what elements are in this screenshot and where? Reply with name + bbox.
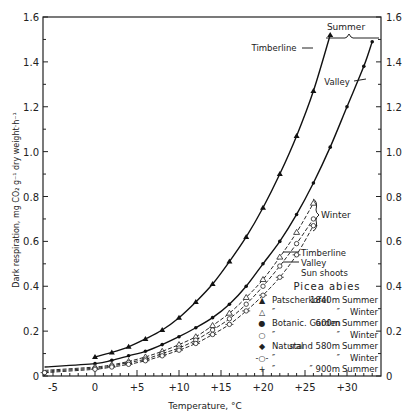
- svg-text:Summer: Summer: [342, 341, 379, 351]
- legend-row: -○-″″Winter: [256, 353, 379, 363]
- annotation-summer: Summer: [327, 22, 365, 32]
- legend-marker-icon: +: [259, 365, 266, 374]
- x-tick-label: +20: [252, 382, 273, 393]
- y-tick-label-right: 1.0: [386, 147, 402, 158]
- x-tick-label: +30: [336, 382, 357, 393]
- y-tick-label-right: 0.4: [386, 281, 402, 292]
- annotation-valley: Valley: [324, 77, 349, 87]
- annotation-w-timberline: Timberline: [300, 248, 346, 258]
- svg-text:Summer: Summer: [342, 364, 379, 374]
- valley-leader: [354, 79, 366, 81]
- legend-marker-icon: ◆: [259, 342, 266, 351]
- y-tick-label-right: 1.4: [386, 57, 402, 68]
- series-0: [92, 32, 333, 359]
- y-tick-label-right: 0.2: [386, 326, 402, 337]
- legend-row: +″″ 900mSummer: [259, 364, 379, 374]
- y-tick-label-left: 1.6: [23, 12, 39, 23]
- y-tick-label-left: 1.4: [23, 57, 39, 68]
- x-axis-label: Temperature, °C: [167, 401, 242, 411]
- svg-text:″: ″: [272, 330, 275, 340]
- svg-text:Winter: Winter: [350, 330, 379, 340]
- svg-text:Winter: Winter: [350, 307, 379, 317]
- legend-row: ▲Patscherkofel1840mSummer: [259, 295, 379, 305]
- svg-text:Summer: Summer: [342, 295, 379, 305]
- legend-marker-icon: ▲: [259, 296, 266, 305]
- y-tick-label-right: 0.6: [386, 236, 402, 247]
- y-tick-label-right: 1.2: [386, 102, 402, 113]
- svg-text:″: ″: [272, 353, 275, 363]
- x-tick-label: +10: [168, 382, 189, 393]
- svg-text:″: ″: [337, 353, 340, 363]
- svg-text:″: ″: [272, 307, 275, 317]
- legend-row: ◆Naturalstand 580mSummer: [259, 341, 379, 351]
- y-tick-label-left: 0.6: [23, 236, 39, 247]
- legend-title: Picea abies: [293, 281, 360, 292]
- svg-text:″: ″: [337, 330, 340, 340]
- svg-text:600m: 600m: [315, 318, 340, 328]
- legend-row: ○″″Winter: [259, 330, 379, 340]
- annotation-timberline: Timberline: [250, 43, 296, 53]
- svg-text:″ 900m: ″ 900m: [310, 364, 340, 374]
- y-axis-label: Dark respiration, mg CO₂ g⁻¹ dry weight·…: [12, 112, 21, 287]
- x-tick-label: 0: [92, 382, 98, 393]
- y-tick-label-left: 0: [33, 371, 39, 382]
- annotation-sun-shoots: Sun shoots: [301, 268, 348, 278]
- y-tick-label-left: 1.2: [23, 102, 39, 113]
- x-tick-label: +15: [210, 382, 231, 393]
- legend-marker-icon: ○: [259, 331, 266, 340]
- y-tick-label-left: 0.8: [23, 192, 39, 203]
- svg-text:stand 580m: stand 580m: [289, 341, 340, 351]
- legend-row: △″″Winter: [259, 307, 379, 317]
- y-tick-label-left: 0.4: [23, 281, 39, 292]
- y-tick-label-right: 1.6: [386, 12, 402, 23]
- svg-text:Winter: Winter: [350, 353, 379, 363]
- annotation-w-valley: Valley: [301, 258, 326, 268]
- respiration-chart: 000.20.20.40.40.60.60.80.81.01.01.21.21.…: [0, 0, 410, 414]
- legend-marker-icon: △: [259, 308, 266, 317]
- summer-brace: [326, 34, 379, 38]
- svg-text:″: ″: [272, 364, 275, 374]
- svg-text:″: ″: [337, 307, 340, 317]
- svg-text:1840m: 1840m: [310, 295, 340, 305]
- legend: Picea abies ▲Patscherkofel1840mSummer△″″…: [256, 281, 379, 374]
- y-tick-label-left: 1.0: [23, 147, 39, 158]
- y-tick-label-right: 0.8: [386, 192, 402, 203]
- y-tick-label-left: 0.2: [23, 326, 39, 337]
- legend-row: ●Botanic. Garden600mSummer: [259, 318, 379, 328]
- legend-marker-icon: -○-: [256, 354, 269, 363]
- svg-text:Summer: Summer: [342, 318, 379, 328]
- annotation-winter: Winter: [321, 210, 351, 220]
- y-tick-label-right: 0: [386, 371, 392, 382]
- x-tick-label: -5: [48, 382, 58, 393]
- x-tick-label: +25: [294, 382, 315, 393]
- legend-marker-icon: ●: [259, 319, 266, 328]
- x-tick-label: +5: [130, 382, 145, 393]
